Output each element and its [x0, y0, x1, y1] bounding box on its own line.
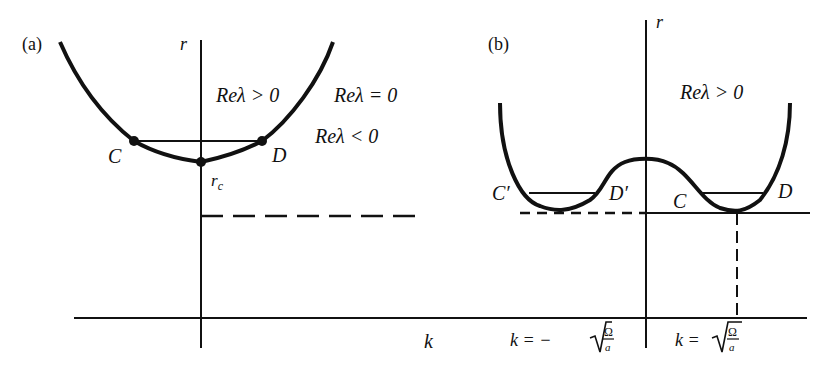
k-axis-label: k: [424, 330, 434, 352]
a-point-c: [129, 136, 139, 146]
k-pos-root-num: Ω: [728, 325, 737, 339]
a-region-boundary-label: Reλ = 0: [333, 84, 397, 106]
k-pos-root-prefix: k =: [675, 330, 700, 350]
b-label-cprime: C′: [492, 182, 510, 204]
a-label-c: C: [108, 145, 122, 167]
k-pos-root-den: a: [729, 341, 735, 353]
k-neg-root-den: a: [605, 341, 611, 353]
b-r-axis-label: r: [656, 12, 664, 32]
a-label-rc: rc: [211, 171, 224, 193]
b-label-d: D: [777, 180, 793, 202]
b-panel-label: (b): [488, 34, 509, 55]
k-pos-sqrt-sign: [712, 322, 742, 352]
k-neg-root-prefix: k = −: [510, 330, 551, 350]
instability-diagram: (a) r Reλ > 0 Reλ = 0 Reλ < 0 C D rc (b)…: [0, 0, 829, 377]
a-panel-label: (a): [22, 34, 42, 55]
b-label-c: C: [673, 190, 687, 212]
a-point-d: [257, 136, 267, 146]
a-label-d: D: [271, 144, 287, 166]
a-region-above-label: Reλ > 0: [215, 84, 279, 106]
a-region-below-label: Reλ < 0: [314, 125, 378, 147]
a-neutral-curve: [60, 42, 333, 162]
b-label-dprime: D′: [608, 182, 628, 204]
k-neg-root-num: Ω: [604, 325, 613, 339]
a-r-axis-label: r: [180, 34, 188, 54]
b-region-above-label: Reλ > 0: [679, 81, 743, 103]
a-point-rc: [196, 157, 206, 167]
